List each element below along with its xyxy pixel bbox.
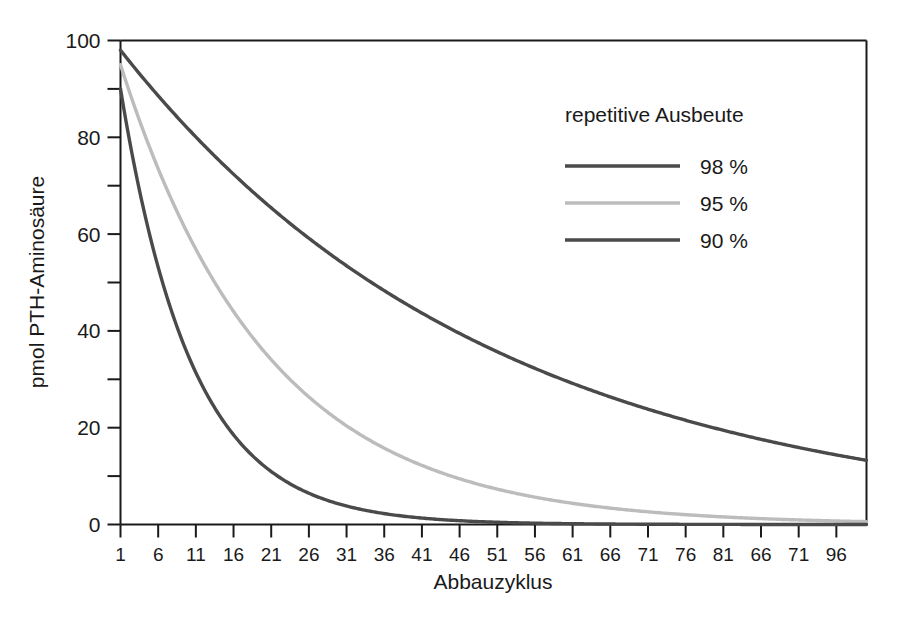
decay-line-chart: 020406080100 161116212631364146515661667… bbox=[0, 0, 901, 624]
x-tick-label: 6 bbox=[153, 544, 164, 565]
x-tick-label: 36 bbox=[374, 544, 395, 565]
x-tick-label: 76 bbox=[675, 544, 696, 565]
y-tick-label: 20 bbox=[77, 416, 100, 439]
y-axis-title: pmol PTH-Aminosäure bbox=[25, 176, 48, 388]
x-tick-label: 26 bbox=[298, 544, 319, 565]
x-tick-label: 61 bbox=[562, 544, 583, 565]
legend-entry-label: 95 % bbox=[700, 192, 748, 215]
chart-figure: 020406080100 161116212631364146515661667… bbox=[0, 0, 901, 624]
y-tick-label: 80 bbox=[77, 126, 100, 149]
x-axis-title: Abbauzyklus bbox=[433, 570, 552, 593]
x-tick-label: 71 bbox=[637, 544, 658, 565]
legend-entry-label: 98 % bbox=[700, 155, 748, 178]
x-tick-label: 31 bbox=[336, 544, 357, 565]
x-tick-label: 81 bbox=[713, 544, 734, 565]
x-tick-label: 96 bbox=[826, 544, 847, 565]
x-tick-label: 41 bbox=[411, 544, 432, 565]
chart-background bbox=[0, 0, 901, 624]
x-tick-label: 51 bbox=[487, 544, 508, 565]
x-tick-label: 1 bbox=[115, 544, 126, 565]
x-tick-label: 71 bbox=[788, 544, 809, 565]
y-tick-label: 40 bbox=[77, 319, 100, 342]
legend-entry-label: 90 % bbox=[700, 229, 748, 252]
x-tick-label: 11 bbox=[186, 544, 206, 565]
x-tick-label: 66 bbox=[750, 544, 771, 565]
x-tick-label: 21 bbox=[261, 544, 282, 565]
x-tick-label: 46 bbox=[449, 544, 470, 565]
y-tick-label: 100 bbox=[65, 29, 100, 52]
x-tick-label: 66 bbox=[600, 544, 621, 565]
y-tick-label: 60 bbox=[77, 223, 100, 246]
x-tick-label: 16 bbox=[223, 544, 244, 565]
y-tick-label: 0 bbox=[89, 513, 101, 536]
x-tick-label: 56 bbox=[524, 544, 545, 565]
legend-title: repetitive Ausbeute bbox=[565, 103, 744, 126]
